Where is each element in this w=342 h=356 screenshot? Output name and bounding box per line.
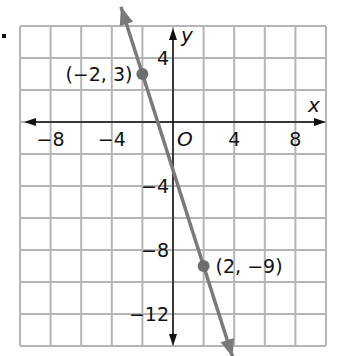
x-tick-label: 8	[289, 128, 301, 150]
x-axis-right-arrow-icon	[314, 118, 326, 126]
x-axis-label: x	[307, 93, 320, 117]
x-tick-label: −4	[98, 128, 126, 150]
x-tick-label: 4	[228, 128, 240, 150]
y-axis-label: y	[180, 23, 194, 47]
y-axis-up-arrow-icon	[169, 28, 177, 40]
data-point-label: (−2, 3)	[65, 63, 132, 85]
x-tick-label: −8	[37, 128, 65, 150]
y-tick-label: −4	[141, 175, 169, 197]
y-tick-label: 4	[157, 47, 169, 69]
data-point	[136, 68, 148, 80]
x-axis-left-arrow-icon	[24, 118, 36, 126]
data-point	[198, 260, 210, 272]
y-tick-label: −12	[129, 303, 169, 325]
coordinate-plane: xyO−8−4484−4−8−12 (−2, 3)(2, −9)	[0, 0, 342, 356]
data-point-label: (2, −9)	[216, 255, 283, 277]
y-axis-down-arrow-icon	[169, 334, 177, 346]
y-tick-label: −8	[141, 239, 169, 261]
origin-label: O	[177, 127, 193, 151]
line-arrow-up-icon	[120, 7, 133, 26]
